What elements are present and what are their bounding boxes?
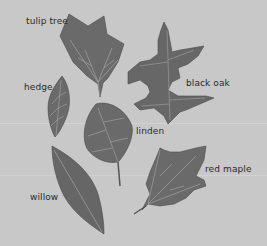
red-maple-leaf bbox=[134, 146, 206, 214]
label-willow: willow bbox=[30, 192, 58, 202]
leaves-illustration bbox=[0, 0, 267, 246]
black-oak-leaf bbox=[128, 22, 214, 124]
label-hedge: hedge bbox=[24, 82, 53, 92]
linden-leaf bbox=[84, 103, 132, 186]
label-red-maple: red maple bbox=[205, 164, 252, 174]
willow-leaf bbox=[52, 146, 104, 234]
tulip-tree-leaf bbox=[60, 14, 124, 97]
leaf-identification-diagram: tulip tree black oak hedge linden willow… bbox=[0, 0, 267, 246]
label-tulip-tree: tulip tree bbox=[26, 16, 68, 26]
label-black-oak: black oak bbox=[186, 78, 230, 88]
label-linden: linden bbox=[136, 126, 164, 136]
